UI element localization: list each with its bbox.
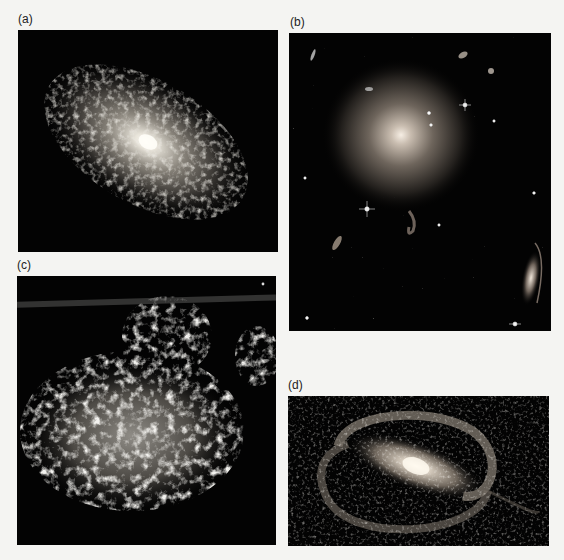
panel-c-irregular-galaxy-image [17,276,276,545]
spiral-galaxy-graphic [18,30,278,252]
panel-d-barred-spiral-galaxy-image [288,396,549,546]
panel-a-spiral-galaxy-image [18,30,278,252]
panel-b-label: (b) [290,15,305,29]
panel-d-label: (d) [288,378,303,392]
elliptical-galaxy-graphic [289,33,551,331]
panel-c-label: (c) [17,258,31,272]
panel-b-elliptical-galaxy-field-image [289,33,551,331]
barred-spiral-galaxy-graphic [288,396,549,546]
irregular-galaxy-graphic [17,276,276,545]
panel-a-label: (a) [18,12,33,26]
